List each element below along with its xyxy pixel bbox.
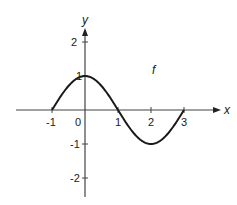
x-tick-label: 1	[115, 116, 121, 128]
y-tick-label: -2	[70, 172, 80, 184]
function-graph: x y -1 0 1 2 3 2 1 -1 -2 f	[0, 0, 237, 205]
x-axis-label: x	[223, 103, 231, 117]
x-tick-label: 2	[148, 116, 154, 128]
y-tick-label: -1	[70, 138, 80, 150]
x-axis-arrow-icon	[213, 107, 221, 113]
x-tick-label: -1	[46, 116, 56, 128]
x-tick-label: 0	[75, 116, 81, 128]
y-axis-arrow-icon	[82, 28, 88, 36]
function-label: f	[152, 63, 157, 77]
y-tick-label: 2	[71, 36, 77, 48]
x-tick-label: 3	[181, 116, 187, 128]
y-axis-label: y	[81, 13, 89, 27]
